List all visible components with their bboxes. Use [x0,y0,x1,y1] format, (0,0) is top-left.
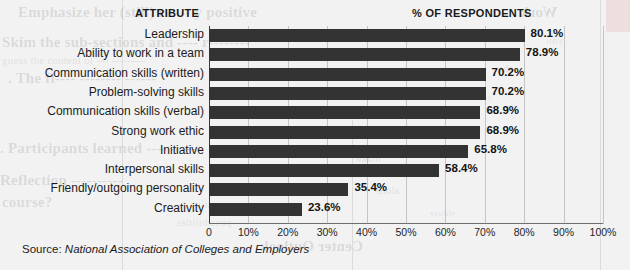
category-label: Ability to work in a team [0,46,204,60]
bar-value-label: 70.2% [492,85,525,97]
category-label: Problem-solving skills [0,85,204,99]
x-axis-tick-label: 100% [580,226,626,238]
plot-area: 80.1%78.9%70.2%70.2%68.9%68.9%65.8%58.4%… [209,26,603,224]
bar-value-label: 78.9% [526,46,559,58]
bar-row[interactable]: 65.8% [209,142,603,161]
bar[interactable] [209,164,439,177]
category-label: Communication skills (written) [0,66,204,80]
column-header-respondents: % OF RESPONDENTS [412,7,532,19]
bar[interactable] [209,29,525,42]
bar-row[interactable]: 68.9% [209,103,603,122]
bar[interactable] [209,68,486,81]
bar-row[interactable]: 70.2% [209,84,603,103]
category-label: Friendly/outgoing personality [0,181,204,195]
bar-row[interactable]: 70.2% [209,65,603,84]
bar[interactable] [209,48,520,61]
bar-row[interactable]: 80.1% [209,26,603,45]
source-note: Source: National Association of Colleges… [22,243,309,255]
source-name: National Association of Colleges and Emp… [65,243,309,255]
bar-chart: ATTRIBUTE % OF RESPONDENTS LeadershipAbi… [0,0,630,270]
bar[interactable] [209,203,302,216]
category-label: Communication skills (verbal) [0,104,204,118]
chart-page: Emphasize her (still) r----- y positive … [0,0,630,270]
category-label: Initiative [0,143,204,157]
bar-value-label: 68.9% [486,104,519,116]
category-label: Strong work ethic [0,124,204,138]
category-label: Leadership [0,27,204,41]
gridline [603,26,604,224]
bar-value-label: 80.1% [531,27,564,39]
bar-row[interactable]: 35.4% [209,180,603,199]
source-label: Source: [22,243,62,255]
bar-value-label: 70.2% [492,66,525,78]
column-header-attribute: ATTRIBUTE [135,7,199,19]
bar[interactable] [209,145,468,158]
bar-value-label: 68.9% [486,124,519,136]
bar-value-label: 58.4% [445,162,478,174]
category-label: Interpersonal skills [0,162,204,176]
bar-value-label: 23.6% [308,201,341,213]
category-label-column: LeadershipAbility to work in a teamCommu… [0,26,204,224]
bar-row[interactable]: 78.9% [209,45,603,64]
bar-value-label: 65.8% [474,143,507,155]
bar-row[interactable]: 23.6% [209,200,603,219]
bar-value-label: 35.4% [354,181,387,193]
bar[interactable] [209,183,348,196]
bar[interactable] [209,126,480,139]
bar[interactable] [209,87,486,100]
bar[interactable] [209,106,480,119]
bar-row[interactable]: 58.4% [209,161,603,180]
bar-row[interactable]: 68.9% [209,123,603,142]
category-label: Creativity [0,201,204,215]
